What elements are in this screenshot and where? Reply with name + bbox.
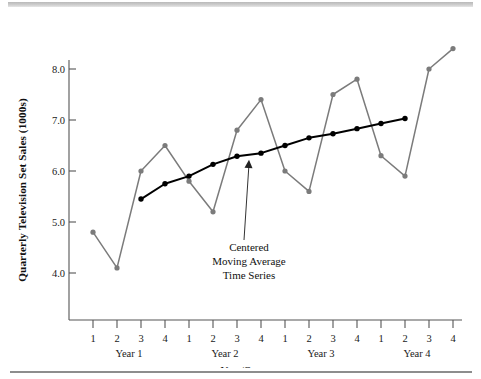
data-point [306,189,311,194]
data-point [162,143,167,148]
annotation-line-2: Moving Average [212,255,286,267]
data-point [330,92,335,97]
x-tick-label: 4 [162,333,168,344]
top-divider-rule [8,2,473,7]
centered-moving-average-points [138,116,407,202]
x-tick-label: 4 [354,333,360,344]
x-tick-label: 1 [378,333,383,344]
data-point [426,66,431,71]
x-tick-label: 4 [450,333,456,344]
data-point [186,173,191,178]
data-point [402,174,407,179]
year-group-label: Year 1 [115,348,142,359]
data-point [162,181,167,186]
data-point [114,265,119,270]
data-point [234,128,239,133]
y-axis-tick-labels: 8.0 7.0 6.0 5.0 4.0 [52,64,65,279]
y-tick-label: 6.0 [52,166,65,177]
x-tick-label: 2 [210,333,215,344]
bottom-divider-rule [10,371,472,373]
annotation-line-1: Centered [229,241,269,253]
y-tick-label: 4.0 [52,268,65,279]
data-point [330,131,335,136]
x-tick-label: 3 [234,333,239,344]
x-tick-label: 1 [186,333,191,344]
data-point [258,97,263,102]
data-point [402,116,407,121]
x-tick-label: 3 [330,333,335,344]
chart-figure: 8.0 7.0 6.0 5.0 4.0 Quarterly Television… [0,8,481,368]
x-axis-title: Year/Quarter [221,364,278,368]
y-axis-title: Quarterly Television Set Sales (1000s) [16,98,29,282]
data-point [210,162,215,167]
x-axis-tick-labels: 1 2 3 4 1 2 3 4 1 2 3 4 1 2 3 4 [90,333,456,344]
raw-sales-series-line [93,49,453,268]
x-tick-label: 2 [306,333,311,344]
data-point [378,153,383,158]
x-tick-label: 1 [282,333,287,344]
y-axis-ticks [69,69,76,273]
data-point [90,230,95,235]
centered-moving-average-line [141,118,405,199]
x-tick-label: 3 [426,333,431,344]
raw-sales-series-points [90,46,455,271]
year-group-label: Year 3 [307,348,334,359]
data-point [210,209,215,214]
data-point [354,77,359,82]
year-group-label: Year 4 [403,348,431,359]
data-point [354,126,359,131]
x-axis-year-labels: Year 1 Year 2 Year 3 Year 4 [115,348,431,359]
data-point [258,150,263,155]
y-tick-label: 8.0 [52,64,65,75]
data-point [138,196,143,201]
data-point [282,143,287,148]
year-group-label: Year 2 [211,348,238,359]
data-point [450,46,455,51]
x-axis-ticks [93,320,453,328]
data-point [378,121,383,126]
data-point [306,135,311,140]
x-tick-label: 2 [114,333,119,344]
data-point [138,168,143,173]
y-tick-label: 7.0 [52,115,65,126]
x-tick-label: 3 [138,333,143,344]
data-point [282,168,287,173]
annotation-line-3: Time Series [223,269,275,281]
data-point [234,154,239,159]
quarterly-tv-sales-chart: 8.0 7.0 6.0 5.0 4.0 Quarterly Television… [0,8,481,368]
x-tick-label: 2 [402,333,407,344]
x-tick-label: 1 [90,333,95,344]
x-tick-label: 4 [258,333,264,344]
y-tick-label: 5.0 [52,217,65,228]
data-point [186,179,191,184]
